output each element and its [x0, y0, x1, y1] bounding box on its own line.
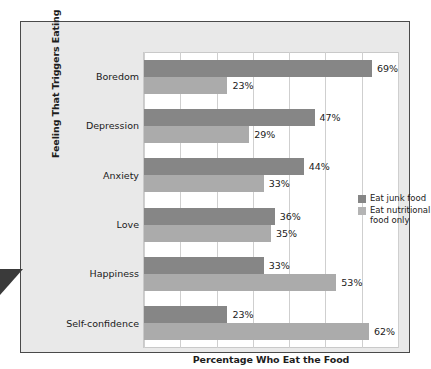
bar-row: 69%: [144, 60, 398, 77]
bar-depression-junk[interactable]: [144, 109, 315, 126]
chart-legend: Eat junk foodEat nutritional food only: [358, 193, 431, 227]
bar-depression-nutrition[interactable]: [144, 126, 249, 143]
category-label-anxiety: Anxiety: [65, 151, 143, 200]
bar-love-nutrition[interactable]: [144, 225, 271, 242]
bar-group: 33%53%: [144, 249, 398, 298]
legend-label: Eat junk food: [370, 193, 426, 203]
bar-self-confidence-nutrition[interactable]: [144, 323, 369, 340]
bar-love-junk[interactable]: [144, 208, 275, 225]
chart-figure: Feeling That Triggers Eating Boredom Dep…: [0, 0, 431, 369]
legend-swatch-icon: [358, 195, 366, 203]
bar-value-label: 36%: [280, 211, 301, 222]
bar-value-label: 33%: [269, 260, 290, 271]
bar-happiness-nutrition[interactable]: [144, 274, 336, 291]
bar-value-label: 69%: [377, 63, 398, 74]
bar-value-label: 23%: [232, 80, 253, 91]
legend-swatch-icon: [358, 207, 366, 215]
bar-value-label: 53%: [341, 277, 362, 288]
bar-row: 23%: [144, 306, 398, 323]
bar-happiness-junk[interactable]: [144, 257, 264, 274]
bar-group: 69%23%: [144, 52, 398, 101]
bar-row: 33%: [144, 175, 398, 192]
category-label-self-confidence: Self-confidence: [65, 299, 143, 348]
bar-row: 44%: [144, 158, 398, 175]
bar-value-label: 47%: [320, 112, 341, 123]
y-axis-title: Feeling That Triggers Eating: [50, 0, 64, 158]
bar-row: 29%: [144, 126, 398, 143]
category-label-depression: Depression: [65, 101, 143, 150]
bar-boredom-nutrition[interactable]: [144, 77, 227, 94]
category-label-love: Love: [65, 200, 143, 249]
bar-row: 47%: [144, 109, 398, 126]
bar-value-label: 29%: [254, 129, 275, 140]
legend-item[interactable]: Eat junk food: [358, 193, 431, 203]
bar-row: 35%: [144, 225, 398, 242]
category-label-boredom: Boredom: [65, 52, 143, 101]
bar-self-confidence-junk[interactable]: [144, 306, 227, 323]
bar-value-label: 23%: [232, 309, 253, 320]
bar-row: 53%: [144, 274, 398, 291]
chart-frame: Feeling That Triggers Eating Boredom Dep…: [20, 21, 410, 353]
bar-group: 47%29%: [144, 101, 398, 150]
bar-value-label: 35%: [276, 228, 297, 239]
category-label-column: Boredom Depression Anxiety Love Happines…: [65, 52, 143, 348]
category-label-happiness: Happiness: [65, 249, 143, 298]
bar-boredom-junk[interactable]: [144, 60, 372, 77]
bar-value-label: 62%: [374, 326, 395, 337]
bar-value-label: 33%: [269, 178, 290, 189]
bar-row: 23%: [144, 77, 398, 94]
bar-value-label: 44%: [309, 161, 330, 172]
bar-anxiety-junk[interactable]: [144, 158, 304, 175]
legend-label: Eat nutritional food only: [370, 205, 431, 225]
left-pointer-arrow-icon: [0, 269, 23, 295]
bar-group: 23%62%: [144, 299, 398, 348]
legend-item[interactable]: Eat nutritional food only: [358, 205, 431, 225]
bar-anxiety-nutrition[interactable]: [144, 175, 264, 192]
bar-row: 62%: [144, 323, 398, 340]
x-axis-title: Percentage Who Eat the Food: [143, 354, 399, 365]
bar-row: 33%: [144, 257, 398, 274]
